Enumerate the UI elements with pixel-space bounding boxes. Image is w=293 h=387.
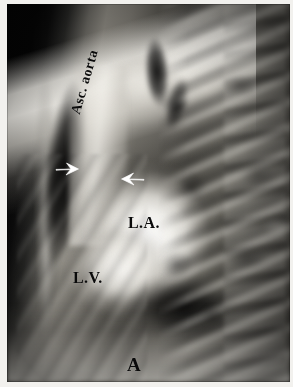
posterior-aortic-border-arrow-icon [119,171,145,191]
lung-parenchyma-markings [147,34,290,354]
radiograph-plate: Asc. aorta L.A. L.V. A [7,4,290,382]
label-left-ventricle: L.V. [73,270,103,286]
anterior-aortic-border-arrow-icon [55,161,81,181]
radiograph-figure: Asc. aorta L.A. L.V. A [0,0,293,387]
panel-label: A [127,355,141,374]
label-left-atrium: L.A. [128,215,160,231]
